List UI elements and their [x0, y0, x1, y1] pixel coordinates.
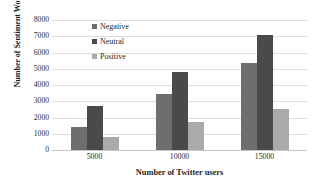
bar-neutral	[172, 72, 188, 150]
y-axis-title: Number of Sentiment Words	[13, 0, 22, 104]
legend-label: Neutral	[100, 37, 124, 46]
bar-negative	[71, 127, 87, 150]
y-axis-tick-label: 0	[24, 146, 49, 154]
bar-negative	[241, 63, 257, 150]
x-axis-tick-label: 5000	[87, 152, 103, 161]
y-axis-tick-label: 8000	[24, 16, 49, 24]
y-axis-tick-labels: 010002000300040005000600070008000	[24, 20, 49, 150]
bar-chart: Number of Sentiment Words 01000200030004…	[0, 0, 313, 193]
y-axis-tick-label: 6000	[24, 49, 49, 57]
bar-negative	[156, 94, 172, 150]
x-axis-tick-label: 15000	[255, 152, 275, 161]
legend-item-negative[interactable]: Negative	[92, 19, 162, 34]
bar-neutral	[257, 35, 273, 150]
legend-swatch-icon	[92, 39, 97, 44]
x-axis-tick-label: 10000	[170, 152, 190, 161]
y-axis-tick-label: 4000	[24, 81, 49, 89]
legend-swatch-icon	[92, 54, 97, 59]
bar-positive	[273, 109, 289, 150]
y-axis-tick-label: 5000	[24, 65, 49, 73]
bar-groups	[52, 20, 307, 150]
legend-label: Positive	[100, 52, 126, 61]
legend-item-neutral[interactable]: Neutral	[92, 34, 162, 49]
y-axis-tick-label: 1000	[24, 130, 49, 138]
legend-swatch-icon	[92, 24, 97, 29]
legend-label: Negative	[100, 22, 129, 31]
gridline	[52, 150, 307, 151]
bar-positive	[103, 137, 119, 150]
bar-neutral	[87, 106, 103, 150]
bar-positive	[188, 122, 204, 150]
x-axis-tick-labels: 50001000015000	[52, 152, 307, 166]
chart-legend: NegativeNeutralPositive	[92, 19, 162, 64]
plot-area	[52, 20, 307, 150]
y-axis-tick-label: 7000	[24, 32, 49, 40]
legend-item-positive[interactable]: Positive	[92, 49, 162, 64]
y-axis-tick-label: 3000	[24, 97, 49, 105]
x-axis-title: Number of Twitter users	[52, 168, 307, 177]
y-axis-tick-label: 2000	[24, 114, 49, 122]
bar-group	[239, 20, 291, 150]
